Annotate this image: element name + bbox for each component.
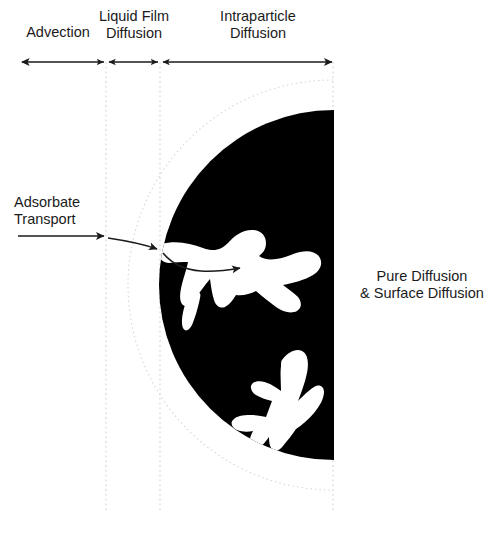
adsorbent-particle (159, 110, 334, 460)
adsorbate-transport-label: Adsorbate Transport (14, 194, 124, 228)
zone-label-intraparticle-diffusion: Intraparticle Diffusion (186, 8, 330, 42)
zone-label-liquid-film-diffusion: Liquid Film Diffusion (76, 8, 192, 42)
diagram-canvas: Advection Liquid Film Diffusion Intrapar… (0, 0, 497, 535)
pure-and-surface-diffusion-label: Pure Diffusion & Surface Diffusion (348, 268, 496, 302)
pore-lower-tail (206, 432, 244, 457)
